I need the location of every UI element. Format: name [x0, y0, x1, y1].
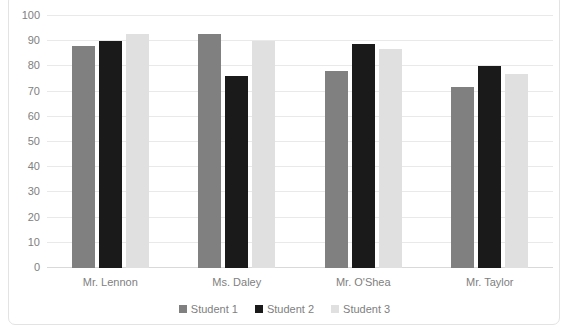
bar-group: Mr. Lennon [47, 16, 174, 268]
bar-slot [124, 16, 151, 268]
bar-groups: Mr. LennonMs. DaleyMr. O'SheaMr. Taylor [47, 16, 553, 268]
bar[interactable] [99, 41, 122, 268]
legend-item[interactable]: Student 2 [255, 303, 314, 315]
bar-group: Mr. O'Shea [300, 16, 427, 268]
y-axis-tick-label: 100 [22, 9, 40, 21]
plot-area: 1009080706050403020100 Mr. LennonMs. Dal… [47, 16, 553, 268]
bar-slot [449, 16, 476, 268]
legend-label: Student 2 [267, 303, 314, 315]
x-axis-category-label: Mr. Taylor [427, 276, 554, 288]
bar-slot [476, 16, 503, 268]
y-axis-tick-label: 90 [28, 34, 40, 46]
legend-label: Student 3 [343, 303, 390, 315]
y-axis-tick-label: 40 [28, 160, 40, 172]
y-axis-tick-label: 20 [28, 211, 40, 223]
bar[interactable] [325, 71, 348, 268]
y-axis-tick-label: 80 [28, 59, 40, 71]
bar-chart: 1009080706050403020100 Mr. LennonMs. Dal… [0, 0, 569, 334]
chart-legend: Student 1Student 2Student 3 [0, 303, 569, 315]
bar-slot [503, 16, 530, 268]
legend-item[interactable]: Student 1 [179, 303, 238, 315]
bar[interactable] [72, 46, 95, 268]
bar-slot [196, 16, 223, 268]
x-axis-category-label: Mr. Lennon [47, 276, 174, 288]
bar-slot [377, 16, 404, 268]
bar-slot [97, 16, 124, 268]
legend-label: Student 1 [191, 303, 238, 315]
bar-slot [70, 16, 97, 268]
bar[interactable] [198, 34, 221, 268]
legend-item[interactable]: Student 3 [331, 303, 390, 315]
bar[interactable] [505, 74, 528, 268]
bar[interactable] [451, 87, 474, 268]
y-axis-tick-label: 50 [28, 135, 40, 147]
y-axis-tick-label: 70 [28, 85, 40, 97]
bar[interactable] [379, 49, 402, 268]
legend-swatch-icon [255, 305, 263, 313]
bar[interactable] [478, 66, 501, 268]
bar-group: Ms. Daley [174, 16, 301, 268]
bar[interactable] [126, 34, 149, 268]
bar-slot [323, 16, 350, 268]
bar[interactable] [225, 76, 248, 268]
legend-swatch-icon [179, 305, 187, 313]
bar-slot [350, 16, 377, 268]
bar-slot [223, 16, 250, 268]
y-axis-tick-label: 60 [28, 110, 40, 122]
bar-slot [250, 16, 277, 268]
y-axis-tick-label: 10 [28, 236, 40, 248]
y-axis-tick-label: 0 [34, 261, 40, 273]
x-axis-category-label: Ms. Daley [174, 276, 301, 288]
bar-group: Mr. Taylor [427, 16, 554, 268]
y-axis-tick-label: 30 [28, 185, 40, 197]
legend-swatch-icon [331, 305, 339, 313]
x-axis-category-label: Mr. O'Shea [300, 276, 427, 288]
bar[interactable] [352, 44, 375, 268]
bar[interactable] [252, 41, 275, 268]
